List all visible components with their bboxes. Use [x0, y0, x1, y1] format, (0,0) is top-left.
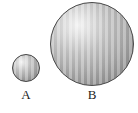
sphere-a [12, 54, 40, 82]
figure-canvas: A B [0, 0, 138, 113]
sphere-b [50, 2, 134, 86]
sphere-b-label: B [50, 88, 134, 101]
sphere-a-label: A [12, 88, 40, 101]
